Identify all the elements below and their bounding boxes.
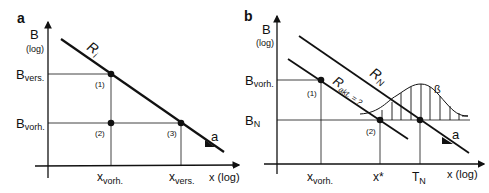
- point-1-label: (1): [307, 89, 317, 98]
- x-axis: [35, 165, 239, 166]
- point-1: [108, 71, 115, 78]
- x-tick-t-n: TN: [412, 170, 426, 186]
- figure: a B (log) x (log) Ri a (1) (2) (3) Bvers…: [0, 0, 489, 193]
- x-axis-label: x (log): [209, 171, 240, 183]
- slope-label: a: [211, 129, 219, 144]
- x-tick-x-star: x*: [373, 170, 384, 184]
- y-tick-b-vers: Bvers.: [16, 67, 44, 83]
- x-tick-x-vers: xvers.: [169, 170, 195, 186]
- line-rn: [299, 36, 469, 153]
- x-axis-label: x (log): [447, 168, 478, 180]
- point-t-n: [417, 117, 424, 124]
- y-axis-scale: (log): [256, 38, 274, 48]
- panel-a: a B (log) x (log) Ri a (1) (2) (3) Bvers…: [16, 10, 240, 186]
- panel-b: b B (log) x (log) ß RN: [244, 8, 484, 186]
- y-tick-b-vorh: Bvorh.: [245, 73, 274, 89]
- x-tick-x-vorh: xvorh.: [307, 170, 333, 186]
- distribution-label: ß: [434, 83, 441, 95]
- y-tick-b-n: BN: [245, 113, 260, 129]
- point-2: [377, 117, 384, 124]
- y-axis-name: B: [30, 27, 39, 42]
- line-ri: [61, 39, 224, 152]
- point-3: [178, 120, 185, 127]
- point-2-label: (2): [95, 129, 105, 138]
- y-axis-name: B: [262, 22, 271, 37]
- point-3-label: (3): [167, 129, 177, 138]
- point-2: [108, 120, 115, 127]
- slope-label: a: [452, 127, 460, 142]
- y-tick-b-vorh: Bvorh.: [16, 116, 45, 132]
- point-1-label: (1): [95, 80, 105, 89]
- x-tick-x-vorh: xvorh.: [97, 170, 123, 186]
- panel-b-label: b: [244, 8, 253, 24]
- point-2-label: (2): [366, 127, 376, 136]
- point-1: [318, 77, 325, 84]
- panel-a-label: a: [17, 10, 25, 26]
- y-axis-scale: (log): [26, 44, 44, 54]
